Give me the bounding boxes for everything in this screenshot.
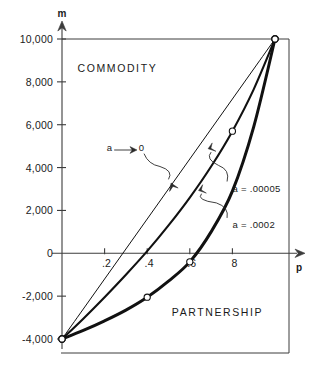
leader-alpha-to-zero [144, 154, 170, 180]
region-commodity: COMMODITY [78, 62, 158, 74]
x-tick-label: 8 [231, 257, 237, 269]
leader-arrowhead-0002 [199, 185, 207, 193]
y-tick-label: 10,000 [20, 33, 53, 45]
y-tick-label: -2,000 [22, 290, 53, 302]
curve-label-alpha-to-zero: a [107, 142, 113, 153]
y-tick-label: 0 [47, 247, 53, 259]
curve-label-0002: a = .0002 [232, 219, 275, 230]
y-tick-label: 2,000 [26, 204, 53, 216]
x-tick-label: .4 [145, 257, 154, 269]
y-tick-label: 4,000 [26, 162, 53, 174]
leader-arrowhead-a0 [170, 183, 179, 191]
region-partnership: PARTNERSHIP [172, 306, 263, 318]
y-axis-name: m [58, 8, 67, 19]
data-point-marker [187, 259, 193, 265]
chart-canvas: mp-4,000-2,00002,0004,0006,0008,00010,00… [0, 0, 329, 368]
leader-0002 [200, 194, 227, 218]
data-point-marker [272, 36, 278, 42]
leader-arrowhead-00005 [208, 143, 216, 151]
y-tick-label: -4,000 [22, 333, 53, 345]
x-axis-name: p [296, 262, 302, 273]
data-point-marker [59, 336, 65, 342]
curve-label-00005: a = .00005 [232, 183, 280, 194]
y-tick-label: 6,000 [26, 119, 53, 131]
data-point-marker [229, 128, 235, 134]
data-point-marker [144, 294, 150, 300]
y-tick-label: 8,000 [26, 76, 53, 88]
curve-label-alpha-to-zero-limit: 0 [139, 142, 145, 153]
figure-commodity-partnership-chart: mp-4,000-2,00002,0004,0006,0008,00010,00… [0, 0, 329, 368]
x-tick-label: .2 [102, 257, 111, 269]
